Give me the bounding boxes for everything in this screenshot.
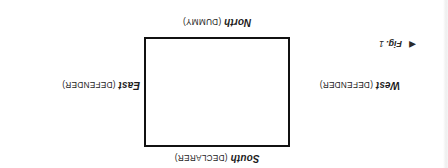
position-direction-south: South xyxy=(230,153,259,164)
figure-caption-label: Fig. xyxy=(386,39,402,49)
position-label-east: East (DEFENDER) xyxy=(62,78,140,91)
position-label-north: North (DUMMY) xyxy=(149,15,285,28)
bridge-table-rectangle xyxy=(144,37,290,147)
left-triangle-icon: ◀ xyxy=(409,39,416,51)
position-label-south: South (DECLARER) xyxy=(149,151,285,164)
position-role-west: (DEFENDER) xyxy=(319,80,373,89)
position-role-east: (DEFENDER) xyxy=(62,80,116,89)
position-direction-north: North xyxy=(224,17,251,28)
position-direction-east: East xyxy=(118,80,140,91)
position-label-west: West (DEFENDER) xyxy=(319,78,400,91)
rotated-figure-canvas: South (DECLARER) West (DEFENDER) East (D… xyxy=(0,0,448,168)
position-role-south: (DECLARER) xyxy=(175,153,228,162)
figure-caption: ◀Fig.1 xyxy=(379,38,416,51)
figure-screenshot: South (DECLARER) West (DEFENDER) East (D… xyxy=(0,0,448,168)
position-direction-west: West xyxy=(376,80,400,91)
position-role-north: (DUMMY) xyxy=(183,17,221,26)
scan-edge-artifact xyxy=(443,0,448,168)
figure-caption-number: 1 xyxy=(379,39,384,49)
